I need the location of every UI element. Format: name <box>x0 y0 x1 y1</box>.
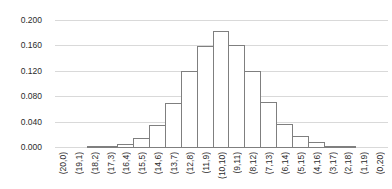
bar-slot <box>198 20 214 148</box>
x-tick-label: (9,11) <box>232 152 242 174</box>
x-tick-label: (15,5) <box>137 152 147 174</box>
bar-slot <box>166 20 182 148</box>
bar-slot <box>277 20 293 148</box>
x-slot: (10,10) <box>214 150 230 189</box>
bar <box>260 102 277 148</box>
x-slot: (12,8) <box>182 150 198 189</box>
x-slot: (6,14) <box>277 150 293 189</box>
bar-slot <box>309 20 325 148</box>
x-tick-label: (18,2) <box>90 152 100 174</box>
x-slot: (14,6) <box>150 150 166 189</box>
x-tick-label: (4,16) <box>312 152 322 174</box>
x-slot: (13,7) <box>166 150 182 189</box>
x-tick-label: (13,7) <box>169 152 179 174</box>
bar <box>339 146 356 148</box>
x-slot: (17,3) <box>103 150 119 189</box>
bar-slot <box>356 20 372 148</box>
y-tick-label: 0.120 <box>0 66 42 76</box>
bar-slot <box>55 20 71 148</box>
bar <box>308 142 325 148</box>
x-slot: (1,19) <box>356 150 372 189</box>
x-slot: (16,4) <box>118 150 134 189</box>
x-tick-label: (20,0) <box>58 152 68 174</box>
bar <box>133 138 150 148</box>
x-tick-label: (10,10) <box>217 152 227 179</box>
bar <box>117 144 134 149</box>
x-slot: (11,9) <box>198 150 214 189</box>
x-tick-label: (16,4) <box>121 152 131 174</box>
bar-slot <box>87 20 103 148</box>
bar <box>87 146 103 148</box>
y-axis-labels: 0.0000.0400.0800.1200.1600.200 <box>0 20 44 148</box>
bar-slot <box>103 20 119 148</box>
bar <box>324 146 341 148</box>
bar-slot <box>182 20 198 148</box>
bar-slot <box>372 20 388 148</box>
bar <box>102 146 119 148</box>
x-slot: (3,17) <box>325 150 341 189</box>
y-tick-label: 0.080 <box>0 91 42 101</box>
bar <box>197 46 214 148</box>
x-slot: (7,13) <box>261 150 277 189</box>
bar-slot <box>325 20 341 148</box>
bar <box>181 71 198 148</box>
bar-slot <box>340 20 356 148</box>
plot-area <box>55 20 388 148</box>
x-slot: (9,11) <box>229 150 245 189</box>
bar-slot <box>214 20 230 148</box>
x-slot: (0,20) <box>372 150 388 189</box>
x-tick-label: (6,14) <box>280 152 290 174</box>
bar-slot <box>245 20 261 148</box>
x-slot: (20,0) <box>55 150 71 189</box>
histogram-chart: 0.0000.0400.0800.1200.1600.200 (20,0)(19… <box>0 0 392 189</box>
x-slot: (19,1) <box>71 150 87 189</box>
x-tick-label: (3,17) <box>328 152 338 174</box>
bar-slot <box>293 20 309 148</box>
x-slot: (5,15) <box>293 150 309 189</box>
bars-container <box>55 20 388 148</box>
bar <box>149 125 166 148</box>
x-tick-label: (0,20) <box>375 152 385 174</box>
x-slot: (2,18) <box>340 150 356 189</box>
x-slot: (18,2) <box>87 150 103 189</box>
bar-slot <box>134 20 150 148</box>
bar <box>244 71 261 148</box>
bar-slot <box>150 20 166 148</box>
bar <box>228 45 245 148</box>
x-slot: (8,12) <box>245 150 261 189</box>
x-axis-labels: (20,0)(19,1)(18,2)(17,3)(16,4)(15,5)(14,… <box>55 150 388 189</box>
bar <box>276 124 293 148</box>
x-tick-label: (1,19) <box>359 152 369 174</box>
bar-slot <box>71 20 87 148</box>
x-tick-label: (11,9) <box>201 152 211 174</box>
x-slot: (15,5) <box>134 150 150 189</box>
bar <box>292 136 309 148</box>
x-tick-label: (17,3) <box>106 152 116 174</box>
bar-slot <box>261 20 277 148</box>
x-tick-label: (12,8) <box>185 152 195 174</box>
x-slot: (4,16) <box>309 150 325 189</box>
y-tick-label: 0.000 <box>0 142 42 152</box>
x-tick-label: (14,6) <box>153 152 163 174</box>
x-tick-label: (5,15) <box>296 152 306 174</box>
x-tick-label: (2,18) <box>343 152 353 174</box>
bar <box>165 103 182 148</box>
y-tick-label: 0.200 <box>0 15 42 25</box>
x-tick-label: (8,12) <box>248 152 258 174</box>
x-tick-label: (19,1) <box>74 152 84 174</box>
bar-slot <box>229 20 245 148</box>
bar-slot <box>118 20 134 148</box>
x-tick-label: (7,13) <box>264 152 274 174</box>
y-tick-label: 0.040 <box>0 117 42 127</box>
y-tick-label: 0.160 <box>0 40 42 50</box>
bar <box>213 31 230 148</box>
